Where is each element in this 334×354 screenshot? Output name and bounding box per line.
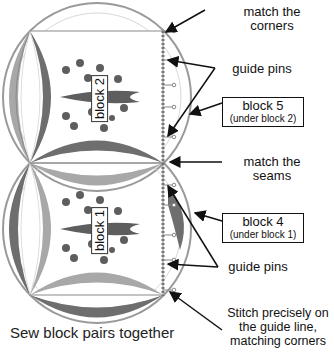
guide-pins-top-label: guide pins bbox=[222, 62, 302, 76]
guide-pins-bottom-label: guide pins bbox=[218, 260, 298, 274]
block-2-label: block 2 bbox=[91, 75, 108, 122]
block-4-title: block 4 bbox=[242, 214, 283, 229]
stitch-note-label: Stitch precisely on the guide line, matc… bbox=[222, 306, 334, 348]
guide-pins bbox=[163, 29, 176, 292]
block-1 bbox=[9, 163, 163, 318]
block-4-arc-sliver bbox=[168, 185, 184, 250]
block-4-subtitle: (under block 1) bbox=[225, 229, 301, 240]
block-5-box: block 5 (under block 2) bbox=[222, 97, 304, 127]
match-corners-label: match the corners bbox=[222, 5, 322, 33]
match-seams-label: match the seams bbox=[222, 155, 322, 183]
diagram-caption: Sew block pairs together bbox=[10, 324, 174, 341]
block-5-subtitle: (under block 2) bbox=[225, 113, 301, 124]
block-4-box: block 4 (under block 1) bbox=[222, 213, 304, 243]
block-1-label: block 1 bbox=[91, 207, 108, 254]
block-5-title: block 5 bbox=[242, 98, 283, 113]
block-2 bbox=[9, 31, 163, 186]
